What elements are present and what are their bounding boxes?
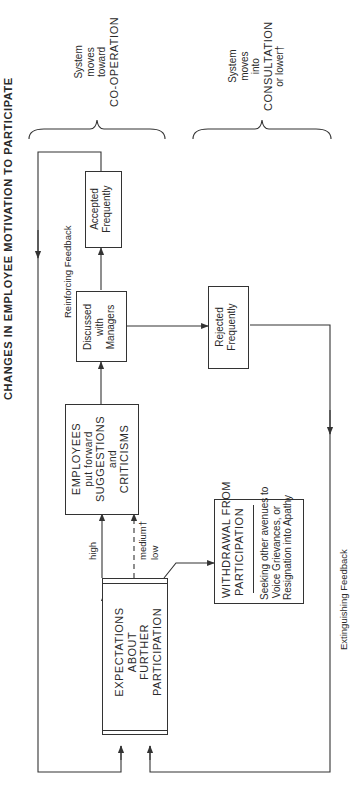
withdrawal-title: WITHDRAWAL FROM PARTICIPATION xyxy=(220,506,245,598)
outcome-consultation: System moves into CONSULTATION or lower† xyxy=(227,21,286,111)
diagram-connectors xyxy=(0,0,360,792)
outcome-cooperation: System moves toward CO-OPERATION xyxy=(73,17,120,107)
brace-consultation xyxy=(193,120,331,139)
withdrawal-description: Seeking other avenues to Voice Grievance… xyxy=(259,504,294,600)
brace-cooperation xyxy=(29,120,165,139)
diagram-title: CHANGES IN EMPLOYEE MOTIVATION TO PARTIC… xyxy=(2,77,15,400)
withdrawal-divider xyxy=(253,505,254,593)
extinguishing-feedback-label: Extinguishing Feedback xyxy=(339,549,350,650)
expectations-bottom-divider xyxy=(102,730,168,731)
rejected-frequently-text: Rejected Frequently xyxy=(214,292,237,362)
reinforcing-feedback-label: Reinforcing Feedback xyxy=(63,226,74,318)
accepted-frequently-text: Accepted Frequently xyxy=(89,177,112,241)
level-low: low xyxy=(150,546,161,560)
level-medium: medium† xyxy=(138,521,149,560)
discussed-with-managers-text: Discussed with Managers xyxy=(82,298,117,356)
employees-suggestions-text: EMPLOYEES put forward SUGGESTIONS and CR… xyxy=(70,410,131,508)
level-high: high xyxy=(88,542,99,560)
expectations-text: EXPECTATIONS ABOUT FURTHER PARTICIPATION xyxy=(113,592,164,712)
expectations-top-divider xyxy=(102,583,168,584)
